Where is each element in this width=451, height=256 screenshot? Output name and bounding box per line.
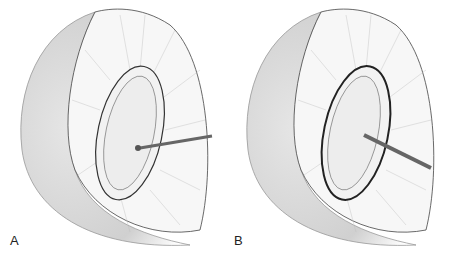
illustration-a xyxy=(0,0,225,256)
panel-b: B xyxy=(226,0,451,256)
illustration-b xyxy=(226,0,451,256)
panel-a: A xyxy=(0,0,225,256)
panel-label: A xyxy=(10,233,19,248)
panel-label: B xyxy=(234,233,243,248)
